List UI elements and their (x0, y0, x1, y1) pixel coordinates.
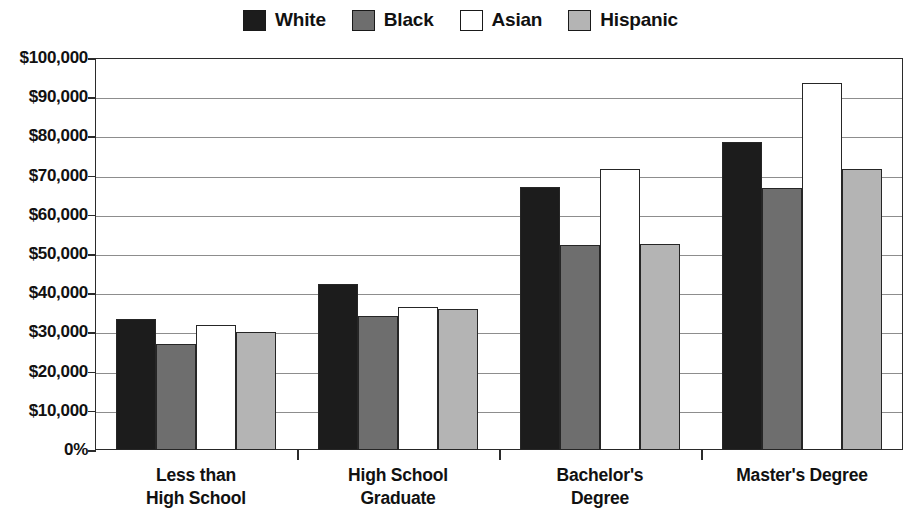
legend-swatch-black (352, 10, 375, 31)
plot-area (95, 58, 903, 450)
gridline (96, 137, 902, 138)
gridline (96, 177, 902, 178)
x-axis-tick-marks (95, 450, 903, 462)
gridline (96, 216, 902, 217)
gridline (96, 255, 902, 256)
x-category-label-line: High School (297, 464, 499, 487)
bar-chart: WhiteBlackAsianHispanic $100,000$90,000$… (0, 0, 921, 532)
gridline (96, 373, 902, 374)
chart-legend: WhiteBlackAsianHispanic (0, 4, 921, 36)
x-category-label-1: High SchoolGraduate (297, 464, 499, 510)
x-category-label-line: Bachelor's (499, 464, 701, 487)
legend-swatch-hispanic (568, 10, 591, 31)
y-axis-tick-marks (0, 58, 96, 450)
x-category-label-line: Graduate (297, 487, 499, 510)
legend-swatch-asian (460, 10, 483, 31)
x-tick-mark (499, 450, 501, 460)
x-axis-labels: Less thanHigh SchoolHigh SchoolGraduateB… (95, 464, 903, 526)
legend-label-hispanic: Hispanic (600, 9, 678, 31)
gridline (96, 294, 902, 295)
x-category-label-line: Less than (95, 464, 297, 487)
legend-entry-white: White (243, 9, 326, 31)
x-category-label-0: Less thanHigh School (95, 464, 297, 510)
x-category-label-3: Master's Degree (701, 464, 903, 487)
gridline (96, 333, 902, 334)
gridline (96, 98, 902, 99)
legend-entry-black: Black (352, 9, 434, 31)
x-category-label-line: High School (95, 487, 297, 510)
legend-label-black: Black (384, 9, 434, 31)
x-category-label-line: Degree (499, 487, 701, 510)
legend-entry-hispanic: Hispanic (568, 9, 678, 31)
legend-swatch-white (243, 10, 266, 31)
gridline (96, 412, 902, 413)
x-tick-mark (701, 450, 703, 460)
x-category-label-2: Bachelor'sDegree (499, 464, 701, 510)
legend-label-white: White (275, 9, 326, 31)
x-tick-mark (297, 450, 299, 460)
legend-entry-asian: Asian (460, 9, 543, 31)
legend-label-asian: Asian (492, 9, 543, 31)
x-category-label-line: Master's Degree (701, 464, 903, 487)
